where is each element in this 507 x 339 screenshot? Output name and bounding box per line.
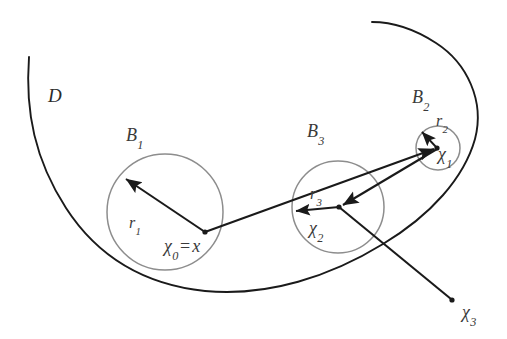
label-ball-b2-base: B — [412, 87, 423, 107]
label-center-chi0-value: x — [192, 236, 200, 256]
label-center-chi1: χ1 — [438, 145, 452, 167]
radius-arrow-r2 — [422, 132, 437, 148]
label-ball-b1-base: B — [126, 125, 137, 145]
label-center-chi3: χ3 — [462, 303, 476, 325]
label-ball-b3: B3 — [307, 122, 324, 144]
label-domain-d: D — [48, 86, 62, 105]
diagram-canvas: D B1 B2 B3 r1 r2 r3 χ0=x χ1 χ2 χ3 — [0, 0, 507, 339]
label-center-chi0: χ0=x — [164, 237, 200, 259]
label-ball-b3-subscript: 3 — [318, 134, 324, 148]
label-radius-r3: r3 — [310, 186, 322, 205]
label-center-chi3-subscript: 3 — [470, 315, 476, 329]
label-ball-b1: B1 — [126, 126, 143, 148]
label-center-chi0-base: χ — [164, 236, 172, 256]
label-ball-b2-subscript: 2 — [423, 100, 429, 114]
label-ball-b2: B2 — [412, 88, 429, 110]
label-center-chi1-base: χ — [438, 144, 446, 164]
label-radius-r2: r2 — [436, 113, 448, 132]
label-center-chi1-subscript: 1 — [446, 157, 452, 171]
label-ball-b3-base: B — [307, 121, 318, 141]
label-center-chi0-subscript: 0 — [172, 249, 178, 263]
center-point-chi0 — [202, 229, 207, 234]
label-center-chi2: χ2 — [309, 219, 323, 241]
center-point-chi3 — [449, 297, 454, 302]
label-radius-r3-subscript: 3 — [316, 196, 321, 208]
label-center-chi3-base: χ — [462, 302, 470, 322]
label-radius-r1: r1 — [129, 215, 141, 234]
label-radius-r1-subscript: 1 — [135, 225, 140, 237]
diagram-svg — [0, 0, 507, 339]
label-center-chi2-base: χ — [309, 218, 317, 238]
segment-chi2-to-chi3 — [339, 207, 451, 299]
label-ball-b1-subscript: 1 — [137, 138, 143, 152]
label-center-chi0-equals: = — [178, 236, 192, 256]
label-domain-d-text: D — [48, 85, 62, 106]
label-radius-r2-subscript: 2 — [442, 123, 447, 135]
label-center-chi2-subscript: 2 — [317, 231, 323, 245]
center-point-chi2 — [336, 204, 341, 209]
